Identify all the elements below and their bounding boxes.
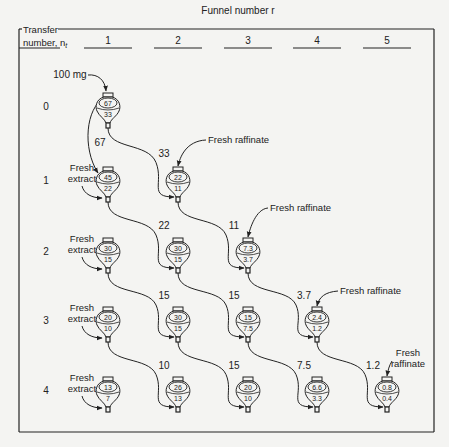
transfer-amount: 33 (158, 148, 170, 159)
transfer-amount: 22 (158, 220, 170, 231)
svg-text:Fresh: Fresh (70, 302, 94, 313)
svg-text:Fresh: Fresh (70, 233, 94, 244)
fresh-raffinate-annotation: Fresh raffinate (317, 285, 401, 306)
upper-phase-amount: 2.4 (312, 314, 322, 321)
row-label-1: 1 (43, 175, 49, 186)
svg-text:1: 1 (105, 35, 111, 46)
lower-phase-amount: 22 (104, 185, 112, 192)
column-header-3: 3 (224, 35, 272, 48)
svg-text:Fresh raffinate: Fresh raffinate (270, 202, 331, 213)
lower-phase-amount: 7.5 (243, 325, 253, 332)
svg-text:extract: extract (68, 173, 97, 184)
lower-phase-amount: 0.4 (382, 395, 392, 402)
svg-text:extract: extract (68, 313, 97, 324)
upper-phase-amount: 13 (104, 384, 112, 391)
lower-phase-amount: 10 (104, 325, 112, 332)
row-label-3: 3 (43, 315, 49, 326)
lower-phase-amount: 11 (174, 185, 181, 192)
svg-text:Fresh raffinate: Fresh raffinate (340, 285, 401, 296)
svg-text:Fresh raffinate: Fresh raffinate (208, 134, 269, 145)
transfer-amount: 7.5 (297, 360, 311, 371)
lower-phase-amount: 13 (174, 395, 182, 402)
upper-phase-amount: 67 (104, 100, 112, 107)
upper-phase-amount: 15 (244, 314, 252, 321)
fresh-raffinate-annotation: Fresh raffinate (178, 134, 269, 166)
lower-phase-amount: 15 (104, 256, 112, 263)
upper-phase-amount: 45 (104, 174, 112, 181)
lower-phase-amount: 3.3 (312, 395, 322, 402)
transfer-amount: 67 (94, 137, 106, 148)
svg-text:4: 4 (314, 35, 320, 46)
upper-phase-amount: 30 (174, 314, 182, 321)
lower-phase-amount: 33 (104, 111, 112, 118)
row-axis-label-line1: Transfer (23, 24, 58, 35)
upper-phase-amount: 20 (244, 384, 252, 391)
separatory-funnel: 6733 (96, 93, 120, 128)
upper-phase-amount: 6.6 (312, 384, 322, 391)
svg-text:2: 2 (175, 35, 181, 46)
lower-phase-amount: 15 (174, 325, 182, 332)
transfer-amount: 15 (158, 290, 170, 301)
svg-text:extract: extract (68, 383, 97, 394)
separatory-funnel: 2010 (96, 307, 120, 342)
countercurrent-distribution-diagram: Funnel number r Transfer number, nt 1234… (0, 0, 449, 447)
transfer-amount: 15 (228, 290, 240, 301)
transfer-amount: 3.7 (297, 290, 311, 301)
lower-phase-amount: 1.2 (312, 325, 322, 332)
transfer-amount: 1.2 (366, 360, 380, 371)
upper-phase-amount: 0.8 (382, 384, 392, 391)
transfer-amount: 15 (228, 360, 240, 371)
chart-title: Funnel number r (201, 5, 275, 16)
svg-text:5: 5 (384, 35, 390, 46)
separatory-funnel: 4522 (96, 167, 120, 202)
separatory-funnel: 137 (96, 377, 120, 412)
upper-phase-amount: 30 (174, 245, 182, 252)
upper-phase-amount: 20 (104, 314, 112, 321)
lower-phase-amount: 7 (106, 395, 110, 402)
row-label-0: 0 (43, 101, 49, 112)
row-axis-label-line2: number, nt (23, 37, 68, 49)
separatory-funnel: 3015 (96, 238, 120, 273)
svg-text:extract: extract (68, 244, 97, 255)
column-header-2: 2 (154, 35, 202, 48)
upper-phase-amount: 30 (104, 245, 112, 252)
svg-text:100 mg: 100 mg (53, 69, 86, 80)
column-header-4: 4 (293, 35, 341, 48)
upper-phase-amount: 22 (174, 174, 182, 181)
column-headers: 12345 (84, 35, 411, 48)
lower-phase-amount: 10 (244, 395, 252, 402)
initial-load-annotation: 100 mg (53, 69, 106, 91)
lower-phase-amount: 3.7 (243, 256, 253, 263)
fresh-raffinate-annotation: Fresh raffinate (248, 202, 331, 237)
fresh-raffinate-annotation: Freshraffinate (387, 347, 425, 376)
upper-phase-amount: 26 (174, 384, 182, 391)
row-label-2: 2 (43, 246, 49, 257)
svg-text:Fresh: Fresh (70, 372, 94, 383)
upper-phase-amount: 7.3 (243, 245, 253, 252)
lower-phase-amount: 15 (174, 256, 182, 263)
transfer-amount: 11 (229, 220, 240, 231)
row-label-4: 4 (43, 385, 49, 396)
row-labels: 01234 (43, 101, 49, 396)
column-header-1: 1 (84, 35, 132, 48)
svg-text:Fresh: Fresh (396, 347, 420, 358)
column-header-5: 5 (363, 35, 411, 48)
svg-text:raffinate: raffinate (391, 358, 425, 369)
transfer-amount: 10 (158, 360, 170, 371)
svg-text:Fresh: Fresh (70, 162, 94, 173)
svg-text:3: 3 (245, 35, 251, 46)
